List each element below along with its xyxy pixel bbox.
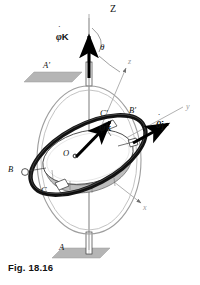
vector-label-theta-dot-j: ˙ θ j [156, 120, 164, 130]
phi-unit-K: K [62, 31, 69, 42]
psi-unit-k: k [106, 122, 111, 133]
axis-label-Z: Z [110, 4, 116, 14]
axis-label-z: z [128, 58, 131, 66]
vector-label-phi-dot-K: ˙ φ K [56, 32, 69, 42]
rotor [37, 121, 138, 193]
psi-dot-accent: ˙ [101, 117, 103, 124]
point-label-A: A [59, 243, 64, 252]
point-label-C-prime: C' [100, 109, 108, 118]
point-label-A-prime: A' [43, 61, 50, 70]
psi-symbol: ˙ ψ [99, 123, 106, 133]
phi-symbol: ˙ φ [56, 32, 62, 42]
axis-label-x: x [143, 204, 147, 212]
theta-symbol: ˙ θ [156, 120, 161, 130]
figure-18-16: Z z y x θ ˙ φ K ˙ θ j ˙ ψ k A' A B' B C'… [0, 0, 200, 285]
phi-dot-accent: ˙ [58, 26, 60, 33]
theta-dot-accent: ˙ [157, 114, 159, 121]
point-label-B: B [8, 165, 13, 174]
point-label-O: O [63, 149, 69, 158]
point-label-B-prime: B' [129, 106, 136, 115]
vector-label-psi-dot-k: ˙ ψ k [99, 123, 111, 133]
point-label-C: C [41, 186, 47, 195]
theta-arc [92, 28, 120, 72]
upper-plate [24, 72, 82, 82]
angle-label-theta: θ [100, 43, 104, 52]
axis-label-y: y [186, 103, 190, 111]
theta-unit-j: j [161, 119, 164, 130]
figure-caption: Fig. 18.16 [8, 262, 53, 273]
